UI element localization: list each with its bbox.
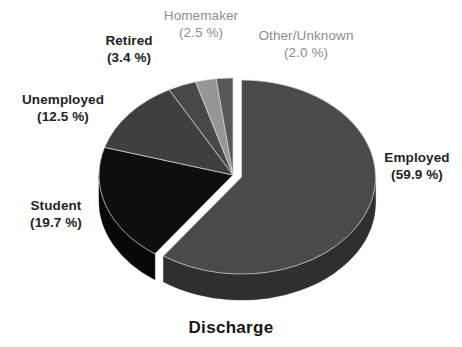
pie-label-retired-percent: (3.4 %): [82, 50, 176, 67]
pie-label-unemployed: Unemployed (12.5 %): [2, 92, 124, 126]
pie-chart-graphic: [88, 74, 378, 314]
pie-label-employed-name: Employed: [372, 150, 462, 167]
pie-label-student: Student (19.7 %): [4, 198, 108, 232]
pie-label-student-name: Student: [4, 198, 108, 215]
pie-label-retired-name: Retired: [82, 33, 176, 50]
chart-title: Discharge: [0, 318, 462, 338]
pie-label-homemaker-name: Homemaker: [142, 8, 260, 25]
pie-chart-figure: Homemaker (2.5 %) Other/Unknown (2.0 %) …: [0, 0, 462, 347]
pie-label-other-unknown-percent: (2.0 %): [238, 45, 374, 62]
pie-label-employed: Employed (59.9 %): [372, 150, 462, 184]
pie-label-unemployed-percent: (12.5 %): [2, 109, 124, 126]
pie-label-unemployed-name: Unemployed: [2, 92, 124, 109]
pie-label-student-percent: (19.7 %): [4, 215, 108, 232]
pie-label-other-unknown: Other/Unknown (2.0 %): [238, 28, 374, 62]
pie-label-employed-percent: (59.9 %): [372, 167, 462, 184]
pie-label-other-unknown-name: Other/Unknown: [238, 28, 374, 45]
pie-label-retired: Retired (3.4 %): [82, 33, 176, 67]
